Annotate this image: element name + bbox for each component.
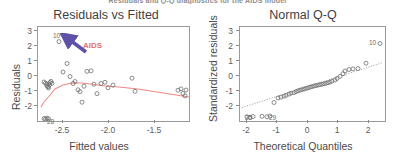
left-point-label-28: 28 <box>47 118 54 125</box>
right-point-label-10: 10 <box>369 39 376 46</box>
right-xtick-neg1: -1 <box>263 125 289 135</box>
right-xtick-2: 2 <box>355 125 381 135</box>
right-xtick-1: 1 <box>324 125 350 135</box>
left-x-axis-label: Fitted values <box>0 140 198 152</box>
right-xtick-mark <box>307 120 308 123</box>
right-xtick-mark <box>246 120 247 123</box>
right-xtick-mark <box>276 120 277 123</box>
right-panel-title: Normal Q-Q <box>197 8 395 22</box>
left-ytick-3: 3 <box>14 26 32 36</box>
left-xtick-mark <box>62 120 63 123</box>
right-ytick-1: 1 <box>215 56 233 66</box>
left-ytick-neg1: -1 <box>14 86 32 96</box>
left-ytick-0: 0 <box>14 71 32 81</box>
figure-supertitle: Residuals and Q-Q diagnostics for the AI… <box>0 0 395 4</box>
left-panel-title: Residuals vs Fitted <box>0 8 198 22</box>
right-plot-svg <box>240 27 385 121</box>
left-ytick-2: 2 <box>14 41 32 51</box>
panel-residuals-vs-fitted: Residuals vs Fitted Residuals 3 2 1 0 -1… <box>0 8 198 162</box>
right-xtick-neg2: -2 <box>233 125 259 135</box>
right-ytick-3: 3 <box>215 26 233 36</box>
right-plot-area <box>239 26 386 122</box>
right-ytick-neg1: -1 <box>215 86 233 96</box>
right-x-axis-label: Theoretical Quantiles <box>197 140 395 152</box>
left-xtick-mark <box>108 120 109 123</box>
aids-annotation-label: AIDS <box>83 41 102 50</box>
right-xtick-0: 0 <box>294 125 320 135</box>
right-ytick-0: 0 <box>215 71 233 81</box>
left-xtick-neg2_5: -2.5 <box>47 125 77 135</box>
left-xtick-neg2_0: -2.0 <box>93 125 123 135</box>
right-ytick-2: 2 <box>215 41 233 51</box>
qq-points <box>245 42 382 120</box>
left-ytick-1: 1 <box>14 56 32 66</box>
left-xtick-mark <box>154 120 155 123</box>
right-ytick-neg2: -2 <box>215 101 233 111</box>
lowess-smoother <box>41 83 189 107</box>
panel-normal-qq: Normal Q-Q Standardized residuals 3 2 1 … <box>197 8 395 162</box>
left-xtick-neg1_5: -1.5 <box>139 125 169 135</box>
left-ytick-neg2: -2 <box>14 101 32 111</box>
diagnostic-plots-figure: Residuals and Q-Q diagnostics for the AI… <box>0 0 395 162</box>
right-xtick-mark <box>337 120 338 123</box>
right-xtick-mark <box>368 120 369 123</box>
